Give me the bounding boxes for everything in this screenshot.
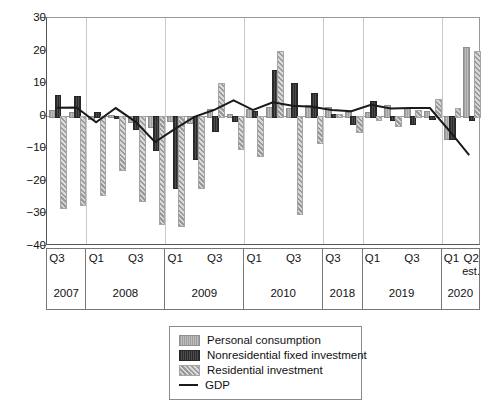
plot-area	[46, 17, 480, 245]
x-axis-year-label: 2010	[244, 287, 322, 299]
x-axis-quarter-label: Q2	[461, 252, 481, 264]
legend-label: Residential investment	[207, 364, 323, 376]
x-axis-quarter-label: Q1	[86, 252, 106, 264]
x-axis-year-label: 2007	[47, 287, 85, 299]
x-axis-year-label: 2020	[442, 287, 479, 299]
legend-label: Nonresidential fixed investment	[207, 349, 367, 361]
x-axis-year-label: 2008	[86, 287, 164, 299]
legend-label: GDP	[205, 379, 230, 391]
x-axis-quarter-label: Q1	[165, 252, 185, 264]
y-axis-tick-label: 0	[2, 110, 46, 120]
legend-item: Residential investment	[179, 363, 353, 377]
x-axis-year-group: Q32007	[46, 248, 85, 310]
x-axis-quarter-label: Q1	[442, 252, 462, 264]
x-axis-year-label: 2009	[165, 287, 243, 299]
legend-item: Nonresidential fixed investment	[179, 348, 353, 362]
y-axis: 3020100−10−20−30−40	[0, 0, 46, 398]
x-axis-quarter-label: Q3	[205, 252, 225, 264]
x-axis-quarter-label: Q3	[323, 252, 343, 264]
gdp-line-layer	[47, 18, 479, 244]
x-axis-quarter-row: Q3	[47, 249, 85, 283]
x-axis-quarter-label: Q3	[284, 252, 304, 264]
y-axis-tick-label: 10	[2, 77, 46, 87]
x-axis-quarter-row: Q1Q3	[244, 249, 322, 283]
y-axis-tick-label: −10	[2, 142, 46, 152]
x-axis-year-label: 2018	[323, 287, 361, 299]
legend-item: Personal consumption	[179, 333, 353, 347]
legend-swatch-pc	[179, 335, 200, 346]
x-axis-year-group: Q1Q32019	[362, 248, 441, 310]
legend-item: GDP	[179, 378, 353, 392]
x-axis-year-group: Q1Q32010	[243, 248, 322, 310]
x-axis-quarter-row: Q1Q3	[165, 249, 243, 283]
x-axis-year-group: Q1Q32009	[164, 248, 243, 310]
y-axis-tick-label: −30	[2, 207, 46, 217]
legend-swatch-line	[179, 384, 198, 386]
y-axis-tick-mark	[41, 245, 46, 246]
x-axis: Q32007Q1Q32008Q1Q32009Q1Q32010Q32018Q1Q3…	[46, 248, 480, 310]
x-axis-year-group: Q32018	[322, 248, 361, 310]
y-axis-tick-label: 20	[2, 45, 46, 55]
gdp-line	[57, 100, 469, 155]
legend-swatch-ri	[179, 365, 200, 376]
x-axis-year-group: Q1Q2est.2020	[441, 248, 480, 310]
x-axis-quarter-label: Q1	[244, 252, 264, 264]
x-axis-quarter-row: Q1Q3	[363, 249, 441, 283]
y-axis-tick-label: −20	[2, 175, 46, 185]
x-axis-quarter-row: Q1Q3	[86, 249, 164, 283]
y-axis-tick-label: −40	[2, 240, 46, 250]
x-axis-quarter-row: Q1Q2est.	[442, 249, 479, 283]
x-axis-quarter-label: Q3	[47, 252, 67, 264]
x-axis-quarter-label: Q3	[402, 252, 422, 264]
x-axis-quarter-label: Q3	[126, 252, 146, 264]
chart-legend: Personal consumptionNonresidential fixed…	[169, 326, 362, 400]
y-axis-tick-label: 30	[2, 12, 46, 22]
x-axis-year-label: 2019	[363, 287, 441, 299]
x-axis-quarter-row: Q3	[323, 249, 361, 283]
x-axis-quarter-label: Q1	[363, 252, 383, 264]
x-axis-year-group: Q1Q32008	[85, 248, 164, 310]
x-axis-quarter-sublabel: est.	[461, 265, 481, 277]
legend-label: Personal consumption	[207, 334, 321, 346]
legend-swatch-nri	[179, 350, 200, 361]
